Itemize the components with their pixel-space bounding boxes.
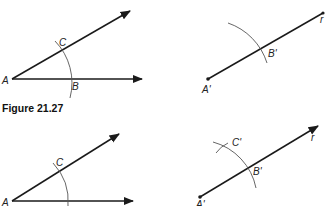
figure-caption: Figure 21.27 — [2, 102, 63, 114]
point-a-prime — [206, 77, 210, 81]
label-b-prime: B' — [253, 166, 263, 177]
upper-ray — [12, 11, 130, 79]
label-b-prime: B' — [268, 48, 278, 59]
panel-bottom-right-ray: C' B' r A' — [195, 126, 318, 206]
label-vertex-a: A — [1, 75, 9, 86]
label-r: r — [311, 132, 315, 143]
ray-r — [208, 13, 323, 79]
panel-bottom-left-angle: A C — [1, 134, 133, 206]
label-c-prime: C' — [232, 137, 242, 148]
label-c: C — [59, 37, 67, 48]
compass-arc — [53, 163, 68, 206]
ray-r — [200, 126, 318, 197]
label-vertex-a: A — [1, 197, 9, 206]
label-b: B — [72, 81, 79, 92]
panel-top-right-ray: A' B' r — [201, 11, 325, 95]
label-r: r — [320, 14, 324, 25]
panel-top-left-angle: A C B — [1, 11, 142, 98]
c-prime-tick-arc — [216, 143, 228, 153]
label-a-prime: A' — [195, 199, 206, 206]
label-a-prime: A' — [201, 84, 212, 95]
geometry-figure: A C B A' B' r Figure 21.27 A C C' B' r A… — [0, 0, 325, 206]
label-c: C — [56, 157, 64, 168]
upper-ray — [12, 134, 119, 201]
